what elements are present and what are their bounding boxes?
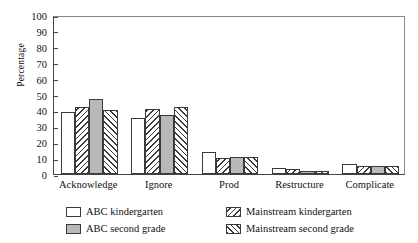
legend-label: Mainstream kindergarten [246, 206, 352, 218]
y-tick-label: 80 [37, 42, 48, 55]
bar [103, 110, 117, 174]
y-tick-label: 90 [37, 26, 48, 39]
bar-group [342, 17, 399, 174]
bar [89, 99, 103, 174]
y-tick-mark [54, 112, 58, 113]
x-axis-category-label: Acknowledge [59, 179, 117, 190]
y-tick-mark [54, 128, 58, 129]
y-tick-label: 10 [37, 153, 48, 166]
y-tick-mark [54, 176, 58, 177]
bar [61, 112, 75, 174]
bar [342, 164, 356, 174]
y-tick-label: 20 [37, 137, 48, 150]
y-tick-mark [54, 32, 58, 33]
y-tick-mark [54, 17, 58, 18]
y-tick-mark [54, 80, 58, 81]
y-tick-mark [54, 96, 58, 97]
legend-item: ABC kindergarten [66, 203, 190, 220]
legend-item: Mainstream kindergarten [226, 203, 396, 220]
legend-swatch [66, 224, 81, 234]
y-tick-mark [54, 64, 58, 65]
x-axis-category-label: Prod [219, 179, 239, 190]
y-tick-label: 40 [37, 105, 48, 118]
bar-group [131, 17, 188, 174]
bar [244, 157, 258, 174]
y-tick-mark [54, 144, 58, 145]
x-axis-category-label: Complicate [346, 179, 394, 190]
bar [145, 109, 159, 174]
plot-area: 0102030405060708090100 [53, 16, 405, 175]
legend-label: ABC kindergarten [86, 206, 163, 218]
bar-group [61, 17, 118, 174]
legend-item: Mainstream second grade [226, 220, 396, 237]
x-axis-category-label: Ignore [145, 179, 172, 190]
bar-group [272, 17, 329, 174]
bar [371, 166, 385, 174]
bar [75, 107, 89, 174]
bar [230, 157, 244, 174]
legend-swatch [226, 224, 241, 234]
y-axis-label: Percentage [16, 18, 26, 112]
bar [216, 158, 230, 174]
bar [202, 152, 216, 174]
bar [174, 107, 188, 174]
legend-swatch [66, 207, 81, 217]
y-tick-mark [54, 48, 58, 49]
bar-chart-figure: Percentage 0102030405060708090100 Acknow… [0, 0, 418, 243]
legend-item: ABC second grade [66, 220, 190, 237]
bar [315, 171, 329, 174]
bar [131, 118, 145, 174]
bar [160, 115, 174, 174]
y-tick-label: 0 [42, 169, 47, 182]
x-axis-category-label: Restructure [275, 179, 323, 190]
y-tick-mark [54, 160, 58, 161]
legend-label: ABC second grade [86, 223, 165, 235]
bar-group [202, 17, 259, 174]
bar [357, 166, 371, 174]
y-tick-label: 30 [37, 121, 48, 134]
y-tick-label: 70 [37, 58, 48, 71]
y-tick-label: 60 [37, 74, 48, 87]
legend-label: Mainstream second grade [246, 223, 354, 235]
y-tick-label: 100 [31, 10, 47, 23]
legend-swatch [226, 207, 241, 217]
chart-legend: ABC kindergartenMainstream kindergartenA… [66, 203, 396, 237]
bar [300, 171, 314, 174]
bar [272, 168, 286, 174]
y-tick-label: 50 [37, 90, 48, 103]
bar [286, 169, 300, 174]
bar [385, 166, 399, 174]
